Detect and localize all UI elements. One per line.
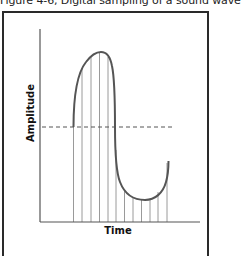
- x-axis-label: Time: [104, 225, 131, 236]
- waveform-curve: [74, 52, 169, 200]
- y-axis-label: Amplitude: [25, 84, 36, 142]
- sample-lines: [74, 52, 168, 222]
